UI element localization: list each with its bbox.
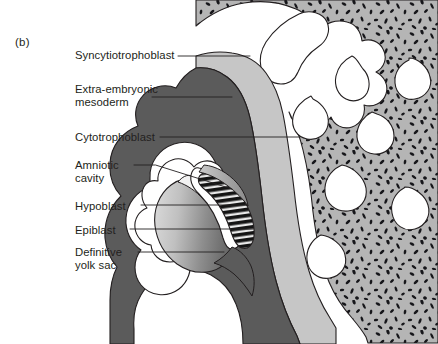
figure-panel-b: (b) SyncytiotrophoblastExtra-embryonic m… [0, 0, 438, 344]
label-syncytiotrophoblast: Syncytiotrophoblast [75, 49, 175, 62]
label-extra-embryonic-mesoderm: Extra-embryonic mesoderm [75, 83, 158, 109]
embryo-cross-section-diagram [0, 0, 438, 344]
panel-letter: (b) [15, 36, 30, 48]
label-definitive-yolk-sac: Definitive yolk sac [75, 246, 122, 272]
label-epiblast: Epiblast [75, 224, 116, 237]
label-hypoblast: Hypoblast [75, 200, 126, 213]
label-amniotic-cavity: Amniotic cavity [75, 159, 119, 185]
label-cytotrophoblast: Cytotrophoblast [75, 131, 155, 144]
